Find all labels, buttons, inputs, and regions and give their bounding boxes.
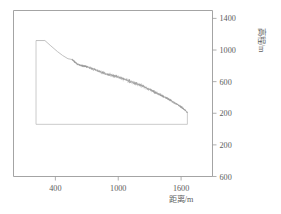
x-tick-label: 1600 — [173, 184, 189, 193]
x-axis-label: 距离/m — [169, 194, 194, 204]
figure-background — [0, 0, 281, 214]
figure-container: 14001000600200200600 40010001600 距离/m 高程… — [0, 0, 281, 214]
y-tick-label: 600 — [220, 173, 232, 182]
slope-profile-chart: 14001000600200200600 40010001600 距离/m 高程… — [0, 0, 281, 214]
y-tick-label: 200 — [220, 109, 232, 118]
y-tick-label: 200 — [220, 141, 232, 150]
y-tick-label: 600 — [220, 78, 232, 87]
y-tick-label: 1000 — [220, 46, 236, 55]
x-tick-label: 400 — [49, 184, 61, 193]
y-axis-label: 高程/m — [257, 28, 267, 53]
x-tick-label: 1000 — [110, 184, 126, 193]
y-tick-label: 1400 — [220, 14, 236, 23]
